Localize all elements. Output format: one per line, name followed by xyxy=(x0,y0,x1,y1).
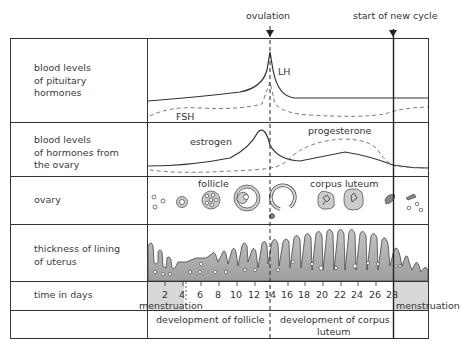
phase-follicle-label: development of follicle xyxy=(156,314,265,325)
tick-16: 16 xyxy=(281,289,293,300)
row-label-pituitary: blood levels of pituitary hormones xyxy=(34,62,91,100)
tick-8: 8 xyxy=(215,289,221,300)
tick-4: 4 xyxy=(179,289,185,300)
estrogen-label: estrogen xyxy=(190,136,232,147)
new-cycle-arrow-icon xyxy=(389,30,397,37)
tick-18: 18 xyxy=(298,289,310,300)
ovulation-arrow-icon xyxy=(266,30,274,37)
tick-20: 20 xyxy=(316,289,328,300)
fsh-label: FSH xyxy=(176,111,194,122)
tick-14: 14 xyxy=(264,289,276,300)
row-label-ovarian-hormones: blood levels of hormones from the ovary xyxy=(34,134,119,172)
tick-12: 12 xyxy=(248,289,260,300)
row-label-ovary: ovary xyxy=(34,194,61,207)
new-cycle-label: start of new cycle xyxy=(353,10,438,21)
phase-corpus-label-1: development of corpus xyxy=(280,314,390,325)
lh-label: LH xyxy=(278,66,290,77)
tick-10: 10 xyxy=(230,289,242,300)
progesterone-label: progesterone xyxy=(308,125,371,136)
tick-2: 2 xyxy=(162,289,168,300)
ovary-stages xyxy=(152,185,423,219)
tick-6: 6 xyxy=(197,289,203,300)
tick-24: 24 xyxy=(351,289,363,300)
menstruation-end-label: menstruation xyxy=(396,300,460,311)
row-label-uterus: thickness of lining of uterus xyxy=(34,243,120,268)
tick-28: 28 xyxy=(386,289,398,300)
row-label-time: time in days xyxy=(34,289,93,302)
tick-22: 22 xyxy=(334,289,346,300)
ovulation-label: ovulation xyxy=(246,10,290,21)
follicle-label: follicle xyxy=(198,178,229,189)
phase-corpus-label-2: luteum xyxy=(317,326,351,337)
menstruation-start-label: menstruation xyxy=(139,300,203,311)
corpus-luteum-label: corpus luteum xyxy=(310,178,378,189)
tick-26: 26 xyxy=(369,289,381,300)
